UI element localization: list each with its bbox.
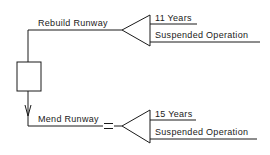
outcome-15-years-label: 15 Years (155, 109, 192, 119)
decision-node-square (17, 62, 41, 91)
mend-runway-label: Mend Runway (38, 114, 99, 124)
outcome-suspended-top-label: Suspended Operation (155, 30, 248, 40)
decision-tree-diagram: Rebuild Runway 11 Years Suspended Operat… (0, 0, 270, 155)
outcome-suspended-bottom-label: Suspended Operation (155, 127, 248, 137)
outcome-11-years-label: 11 Years (155, 13, 192, 23)
mend-chance-node-triangle (122, 110, 150, 143)
rebuild-branch-line (28, 30, 122, 62)
rebuild-runway-label: Rebuild Runway (38, 18, 108, 28)
rebuild-chance-node-triangle (122, 15, 150, 46)
